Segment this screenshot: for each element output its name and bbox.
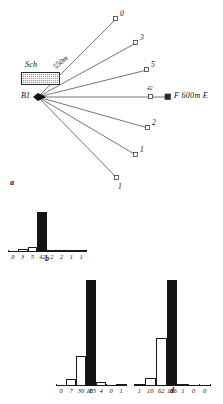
f-target-label: F 600m E [174, 91, 208, 100]
panel-letter-c: c [56, 386, 126, 395]
histogram-bar [76, 250, 86, 252]
histogram-bar [37, 212, 47, 252]
histogram-bar [145, 378, 156, 386]
panel-b-plot: 035422211 [8, 208, 86, 252]
panel-d-plot: 11062136100 [134, 276, 210, 386]
axis-tick [67, 250, 68, 252]
axis-tick [37, 250, 38, 252]
axis-tick [76, 250, 77, 252]
panel-d-histogram: 11062136100 d [134, 272, 218, 400]
axis-tick [126, 384, 127, 386]
ray-line-0 [38, 19, 116, 97]
histogram-bar [28, 247, 38, 252]
axis-tick [47, 250, 48, 252]
axis-tick [57, 250, 58, 252]
ray-endpoint-0 [114, 17, 118, 21]
panel-a-fan-diagram: Sch B1 550m 0 3 5 42 2 1 1 F 600m E a [0, 0, 223, 196]
histogram-bar [76, 356, 86, 386]
panel-c-histogram: 0730105401 c [56, 272, 134, 400]
panel-letter-d: d [134, 386, 210, 395]
ray-line-1 [38, 43, 136, 97]
panel-letter-b: b [8, 254, 86, 263]
ray-line-4 [38, 97, 148, 128]
axis-tick [8, 250, 9, 252]
panel-b-histogram: 035422211 b [8, 204, 92, 266]
ray-endpoint-5 [134, 153, 138, 157]
ray-endpoint-4 [146, 126, 150, 130]
histogram-bar [47, 250, 57, 252]
ray-label-1: 3 [140, 33, 144, 42]
ray-endpoint-markers [114, 17, 153, 180]
ray-label-5: 1 [140, 145, 144, 154]
ray-endpoint-3 [149, 95, 153, 99]
axis-tick [86, 250, 87, 252]
ray-line-5 [38, 97, 136, 155]
ray-label-4: 2 [152, 118, 156, 127]
ray-endpoint-6 [115, 176, 119, 180]
ray-label-0: 0 [120, 9, 124, 18]
ray-label-2: 5 [151, 60, 155, 69]
histogram-bar [156, 338, 167, 386]
ray-label-6: 1 [118, 182, 122, 191]
school-label: Sch [25, 60, 37, 69]
histogram-bar [57, 250, 67, 252]
ray-label-3: 42 [147, 85, 153, 91]
figure-root: Sch B1 550m 0 3 5 42 2 1 1 F 600m E a 03… [0, 0, 223, 404]
axis-tick [210, 384, 211, 386]
histogram-bar [67, 250, 77, 252]
origin-marker-b1 [33, 93, 46, 101]
school-building-block [21, 72, 60, 85]
histogram-bar [167, 280, 178, 386]
origin-label-b1: B1 [21, 91, 30, 100]
histogram-bar [66, 379, 76, 386]
axis-tick [28, 250, 29, 252]
panel-letter-a: a [10, 178, 14, 187]
histogram-bar [86, 280, 96, 386]
ray-endpoint-1 [134, 41, 138, 45]
ray-endpoint-2 [145, 68, 149, 72]
histogram-bar [18, 249, 28, 252]
panel-c-plot: 0730105401 [56, 276, 126, 386]
axis-tick [18, 250, 19, 252]
f-marker [165, 94, 171, 100]
ray-line-6 [38, 97, 117, 178]
